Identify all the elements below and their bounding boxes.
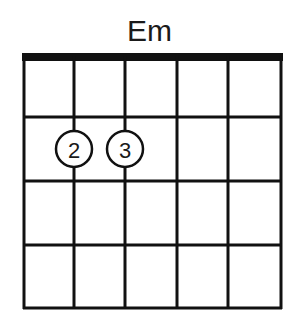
nut xyxy=(22,53,283,61)
finger-number: 2 xyxy=(68,138,80,163)
finger-dot: 3 xyxy=(107,131,143,167)
finger-dot: 2 xyxy=(56,131,92,167)
finger-number: 3 xyxy=(119,138,131,163)
chord-diagram: 2 3 xyxy=(0,0,299,316)
